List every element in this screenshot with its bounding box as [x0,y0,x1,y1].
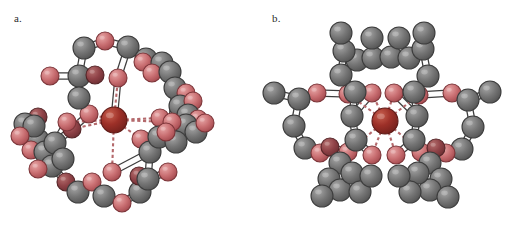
atom-sphere [157,123,175,141]
atom-metal-cation [101,107,127,133]
atom-sphere [137,168,159,190]
atom-carbon [406,105,428,127]
atom-oxygen [103,163,121,181]
atom-highlight [106,167,111,171]
atom-oxygen [29,160,47,178]
atom-oxygen [308,84,326,102]
atom-highlight [423,184,430,189]
atom-carbon [360,165,382,187]
atom-highlight [390,150,395,154]
atom-oxygen [363,146,381,164]
atom-carbon [462,116,484,138]
atom-highlight [168,82,175,87]
atom-carbon [361,27,383,49]
atom-sphere [361,27,383,49]
atom-oxygen [196,114,214,132]
atom-highlight [315,190,322,195]
atom-highlight [366,150,371,154]
atom-highlight [27,120,34,125]
atom-oxygen-shaded [86,66,104,84]
atom-highlight [417,27,424,32]
atom-highlight [137,57,142,61]
atom-highlight [366,52,373,57]
atom-sphere [113,194,131,212]
atom-highlight [48,137,55,142]
figure-container: a. [0,0,517,228]
atom-highlight [154,113,159,117]
atom-highlight [181,109,188,114]
atom-sphere [143,64,161,82]
atom-sphere [479,81,501,103]
atom-highlight [116,198,121,202]
atom-sphere [462,116,484,138]
atom-carbon [52,148,74,170]
atom-carbon [93,185,115,207]
atom-carbon [479,81,501,103]
atom-sphere [288,88,310,110]
atom-sphere [308,84,326,102]
atom-highlight [314,148,319,152]
atom-highlight [345,110,352,115]
atom-carbon [437,186,459,208]
atom-highlight [334,27,341,32]
atom-carbon [68,87,90,109]
atom-carbon [388,165,410,187]
atom-highlight [337,45,344,50]
atom-highlight [345,167,352,172]
atom-highlight [60,177,65,181]
atom-highlight [407,134,414,139]
atom-highlight [348,86,355,91]
panel-b: b. [258,0,517,228]
atom-highlight [287,120,294,125]
atom-highlight [45,160,52,165]
atom-highlight [311,88,316,92]
atom-carbon [73,37,95,59]
atom-highlight [349,134,356,139]
atom-sphere [406,105,428,127]
atom-carbon [413,22,435,44]
atom-highlight [135,134,140,138]
atom-highlight [173,100,180,105]
atom-highlight [160,127,165,131]
atom-highlight [38,146,45,151]
atom-highlight [267,87,274,92]
atom-highlight [324,142,329,146]
atom-carbon [330,22,352,44]
atom-highlight [187,96,192,100]
panel-a: a. [0,0,258,228]
atom-carbon [344,81,366,103]
atom-carbon [345,129,367,151]
atom-carbon [341,105,363,127]
atom-sphere [413,22,435,44]
atom-highlight [298,142,305,147]
atom-oxygen [109,69,127,87]
atom-sphere [41,67,59,85]
atom-highlight [461,94,468,99]
atom-highlight [483,86,490,91]
atom-highlight [83,109,88,113]
atom-highlight [32,164,37,168]
atom-highlight [388,88,393,92]
atom-sphere [96,32,114,50]
atom-highlight [133,186,140,191]
atom-highlight [322,173,329,178]
atom-sphere [263,82,285,104]
atom-highlight [466,121,473,126]
atom-sphere [68,87,90,109]
atom-carbon [263,82,285,104]
atom-highlight [106,112,114,118]
atom-highlight [189,126,196,131]
atom-highlight [89,70,94,74]
atom-sphere [283,115,305,137]
atom-sphere [52,148,74,170]
atom-highlight [14,131,19,135]
atom-sphere [388,27,410,49]
atom-highlight [441,191,448,196]
atom-highlight [366,88,371,92]
atom-sphere [103,163,121,181]
atom-metal-cation [372,108,398,134]
atom-sphere [109,69,127,87]
atom-highlight [112,73,117,77]
atom-oxygen [113,194,131,212]
atom-highlight [44,71,49,75]
